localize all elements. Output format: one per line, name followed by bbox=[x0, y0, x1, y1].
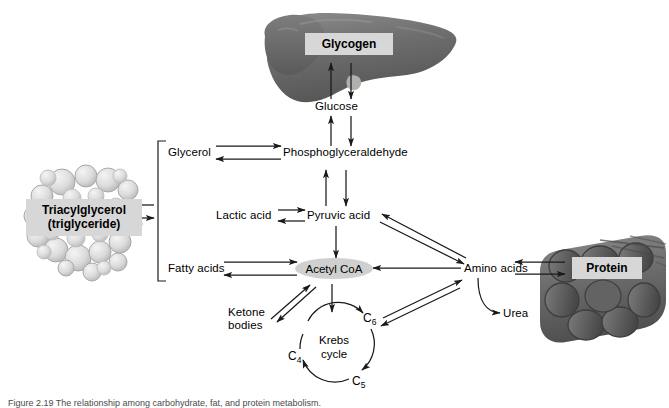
label-c4: C4 bbox=[288, 349, 301, 365]
c5-subscript: 5 bbox=[361, 380, 366, 390]
krebs-line2: cycle bbox=[321, 348, 347, 360]
c6-subscript: 6 bbox=[372, 317, 377, 327]
figure-canvas: Glycogen Glucose Glycerol Phosphoglycera… bbox=[0, 0, 669, 408]
label-acetyl-coa: Acetyl CoA bbox=[295, 258, 373, 279]
label-c6: C6 bbox=[363, 311, 376, 327]
figure-caption: Figure 2.19 The relationship among carbo… bbox=[8, 398, 321, 408]
label-triacylglycerol: Triacylglycerol (triglyceride) bbox=[26, 199, 142, 236]
krebs-line1: Krebs bbox=[319, 334, 349, 346]
label-glucose: Glucose bbox=[315, 100, 358, 113]
arrow-aminoacids-to-c6 bbox=[381, 288, 460, 326]
label-fatty-acids: Fatty acids bbox=[168, 262, 225, 275]
lipid-bracket bbox=[158, 141, 166, 281]
label-krebs-cycle: Krebs cycle bbox=[311, 334, 357, 362]
label-ketone-bodies: Ketone bodies bbox=[228, 306, 265, 332]
label-protein: Protein bbox=[572, 257, 642, 279]
label-phosphoglyceraldehyde: Phosphoglyceraldehyde bbox=[283, 146, 408, 159]
arrow-aminoacids-to-urea bbox=[478, 278, 500, 313]
ketone-bodies-line1: Ketone bbox=[228, 306, 265, 318]
label-urea: Urea bbox=[503, 307, 528, 320]
triacylglycerol-line1: Triacylglycerol bbox=[42, 203, 126, 217]
label-glycerol: Glycerol bbox=[168, 146, 211, 159]
arrow-ketonebodies-to-acetylcoa bbox=[271, 285, 310, 319]
label-c5: C5 bbox=[352, 374, 365, 390]
arrow-aminoacids-to-pyruvate bbox=[382, 214, 466, 258]
label-glycogen: Glycogen bbox=[305, 33, 393, 55]
label-lactic-acid: Lactic acid bbox=[216, 209, 271, 222]
label-pyruvic-acid: Pyruvic acid bbox=[307, 209, 370, 222]
ketone-bodies-line2: bodies bbox=[228, 319, 263, 331]
c4-subscript: 4 bbox=[297, 355, 302, 365]
label-amino-acids: Amino acids bbox=[464, 262, 528, 275]
arrow-pyruvate-to-aminoacids bbox=[380, 222, 464, 264]
arrow-c6-to-aminoacids bbox=[383, 280, 462, 318]
triacylglycerol-line2: (triglyceride) bbox=[48, 217, 121, 231]
